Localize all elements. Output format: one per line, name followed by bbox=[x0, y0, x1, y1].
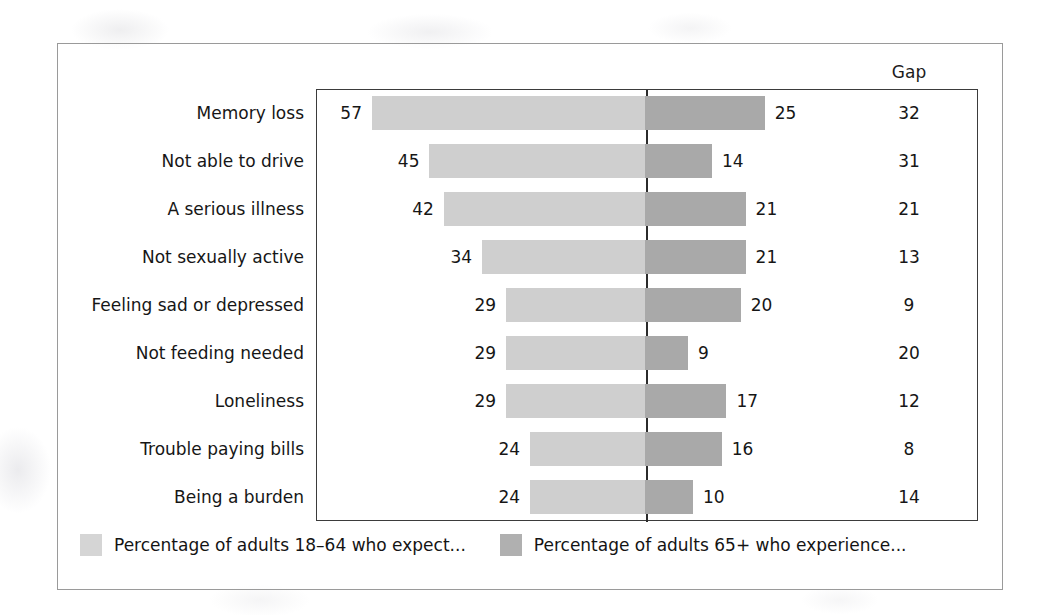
legend-swatch-icon-experience bbox=[500, 534, 522, 556]
bar-expect bbox=[506, 288, 645, 322]
bar-experience bbox=[645, 144, 712, 178]
gap-value: 20 bbox=[878, 329, 940, 377]
legend-item-experience: Percentage of adults 65+ who experience.… bbox=[500, 534, 907, 556]
category-label: Memory loss bbox=[197, 89, 304, 137]
legend-item-expect: Percentage of adults 18–64 who expect... bbox=[80, 534, 466, 556]
table-row: Feeling sad or depressed29209 bbox=[316, 281, 978, 329]
gap-value: 13 bbox=[878, 233, 940, 281]
value-label-expect: 34 bbox=[451, 233, 473, 281]
table-row: Memory loss572532 bbox=[316, 89, 978, 137]
category-label: Not able to drive bbox=[162, 137, 304, 185]
value-label-experience: 9 bbox=[698, 329, 709, 377]
gap-value: 21 bbox=[878, 185, 940, 233]
value-label-expect: 29 bbox=[474, 377, 496, 425]
value-label-expect: 45 bbox=[398, 137, 420, 185]
bar-expect bbox=[372, 96, 645, 130]
bar-expect bbox=[429, 144, 645, 178]
gap-value: 12 bbox=[878, 377, 940, 425]
legend-label-expect: Percentage of adults 18–64 who expect... bbox=[114, 535, 466, 555]
bar-experience bbox=[645, 288, 741, 322]
chart-legend: Percentage of adults 18–64 who expect...… bbox=[80, 528, 980, 562]
table-row: Trouble paying bills24168 bbox=[316, 425, 978, 473]
value-label-experience: 25 bbox=[775, 89, 797, 137]
table-row: Not able to drive451431 bbox=[316, 137, 978, 185]
value-label-experience: 16 bbox=[732, 425, 754, 473]
table-row: Loneliness291712 bbox=[316, 377, 978, 425]
bar-experience bbox=[645, 240, 746, 274]
value-label-expect: 29 bbox=[474, 329, 496, 377]
category-label: Being a burden bbox=[174, 473, 304, 521]
gap-value: 8 bbox=[878, 425, 940, 473]
category-label: A serious illness bbox=[167, 185, 304, 233]
value-label-experience: 17 bbox=[736, 377, 758, 425]
gap-value: 9 bbox=[878, 281, 940, 329]
category-label: Not sexually active bbox=[142, 233, 304, 281]
bar-expect bbox=[506, 384, 645, 418]
table-row: Being a burden241014 bbox=[316, 473, 978, 521]
value-label-experience: 14 bbox=[722, 137, 744, 185]
value-label-expect: 24 bbox=[498, 425, 520, 473]
table-row: A serious illness422121 bbox=[316, 185, 978, 233]
bar-expect bbox=[482, 240, 645, 274]
bar-expect bbox=[506, 336, 645, 370]
chart-rows: Memory loss572532Not able to drive451431… bbox=[316, 89, 978, 521]
table-row: Not sexually active342113 bbox=[316, 233, 978, 281]
gap-value: 31 bbox=[878, 137, 940, 185]
value-label-experience: 20 bbox=[751, 281, 773, 329]
bar-expect bbox=[444, 192, 645, 226]
gap-column-header: Gap bbox=[878, 62, 940, 82]
value-label-expect: 29 bbox=[474, 281, 496, 329]
category-label: Loneliness bbox=[215, 377, 304, 425]
bar-experience bbox=[645, 480, 693, 514]
bar-expect bbox=[530, 480, 645, 514]
bar-experience bbox=[645, 96, 765, 130]
gap-value: 14 bbox=[878, 473, 940, 521]
table-row: Not feeding needed29920 bbox=[316, 329, 978, 377]
tornado-chart: Gap Memory loss572532Not able to drive45… bbox=[0, 0, 1041, 615]
bar-experience bbox=[645, 384, 726, 418]
value-label-expect: 57 bbox=[340, 89, 362, 137]
bar-expect bbox=[530, 432, 645, 466]
bar-experience bbox=[645, 336, 688, 370]
category-label: Trouble paying bills bbox=[140, 425, 304, 473]
bar-experience bbox=[645, 192, 746, 226]
value-label-experience: 10 bbox=[703, 473, 725, 521]
category-label: Not feeding needed bbox=[136, 329, 304, 377]
bar-experience bbox=[645, 432, 722, 466]
value-label-expect: 42 bbox=[412, 185, 434, 233]
legend-swatch-icon-expect bbox=[80, 534, 102, 556]
category-label: Feeling sad or depressed bbox=[91, 281, 304, 329]
value-label-experience: 21 bbox=[756, 233, 778, 281]
legend-label-experience: Percentage of adults 65+ who experience.… bbox=[534, 535, 907, 555]
value-label-expect: 24 bbox=[498, 473, 520, 521]
gap-value: 32 bbox=[878, 89, 940, 137]
value-label-experience: 21 bbox=[756, 185, 778, 233]
